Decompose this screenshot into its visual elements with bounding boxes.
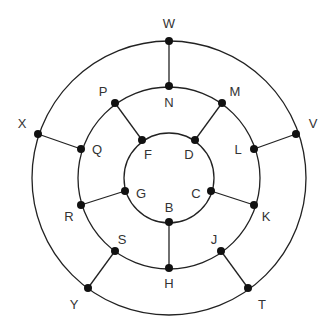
label-G: G: [136, 186, 146, 201]
label-Y: Y: [70, 297, 79, 312]
edge-M-D: [195, 103, 222, 140]
node-B: [165, 218, 173, 226]
node-S: [111, 247, 119, 255]
node-K: [250, 201, 258, 209]
spokes: [38, 41, 296, 288]
node-D: [191, 136, 199, 144]
label-D: D: [184, 147, 193, 162]
edge-V-L: [254, 134, 296, 149]
edge-X-Q: [38, 134, 81, 149]
node-R: [77, 201, 85, 209]
label-W: W: [163, 16, 176, 31]
node-G: [121, 187, 129, 195]
node-M: [218, 99, 226, 107]
node-Q: [77, 145, 85, 153]
edge-J-T: [221, 251, 248, 288]
node-N: [165, 82, 173, 90]
label-F: F: [144, 147, 152, 162]
node-F: [138, 136, 146, 144]
label-L: L: [234, 142, 241, 157]
node-W: [165, 37, 173, 45]
node-X: [34, 130, 42, 138]
node-H: [165, 264, 173, 272]
label-C: C: [191, 186, 200, 201]
label-S: S: [118, 232, 127, 247]
label-N: N: [164, 95, 173, 110]
edge-S-Y: [88, 251, 115, 288]
node-V: [292, 130, 300, 138]
label-V: V: [309, 116, 318, 131]
label-K: K: [262, 209, 271, 224]
node-J: [217, 247, 225, 255]
label-H: H: [164, 276, 173, 291]
label-B: B: [165, 200, 174, 215]
label-X: X: [18, 116, 27, 131]
label-J: J: [211, 232, 218, 247]
edge-P-F: [115, 103, 142, 140]
label-T: T: [258, 297, 266, 312]
concentric-ring-diagram: WNMPFDXQVLGCRKBSJHYT: [0, 0, 335, 328]
label-P: P: [99, 84, 108, 99]
node-L: [250, 145, 258, 153]
edge-C-K: [211, 191, 254, 205]
label-R: R: [64, 209, 73, 224]
label-Q: Q: [92, 142, 102, 157]
edge-G-R: [81, 191, 125, 205]
node-T: [244, 284, 252, 292]
node-C: [207, 187, 215, 195]
node-Y: [84, 284, 92, 292]
label-M: M: [230, 84, 241, 99]
node-P: [111, 99, 119, 107]
